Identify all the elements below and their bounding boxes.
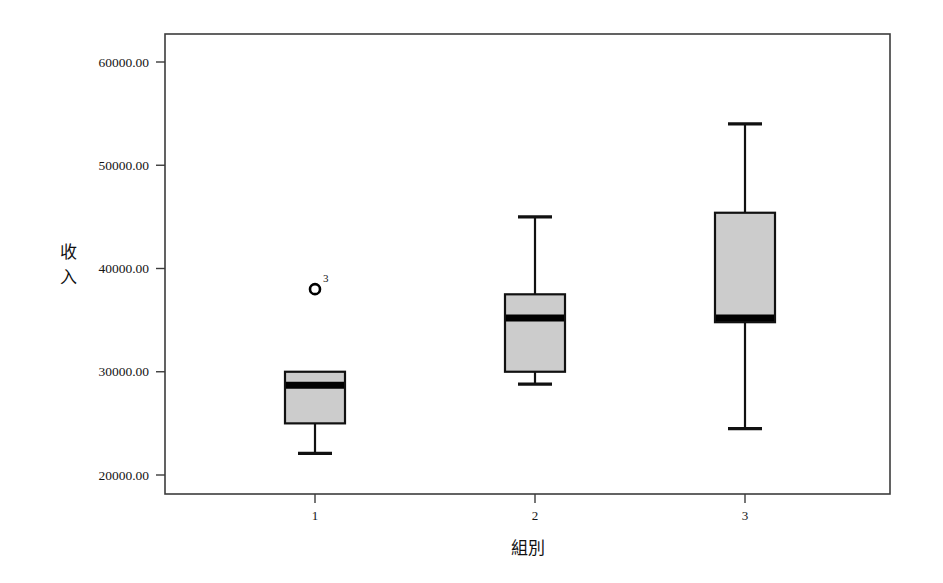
- boxplot-canvas: 20000.0030000.0040000.0050000.0060000.00…: [0, 0, 943, 583]
- box-plot-group: [505, 217, 565, 384]
- box-iqr: [285, 372, 345, 424]
- box-plot-group: [715, 124, 775, 429]
- y-tick-label: 40000.00: [98, 261, 149, 276]
- y-tick-label: 30000.00: [98, 364, 149, 379]
- y-axis-title-char: 收: [60, 243, 77, 262]
- x-tick-label: 1: [312, 508, 319, 523]
- x-tick-label: 2: [532, 508, 539, 523]
- outlier-case-label: 3: [323, 272, 329, 284]
- box-series: 3: [285, 124, 775, 453]
- boxplot-chart: 20000.0030000.0040000.0050000.0060000.00…: [0, 0, 943, 583]
- box-iqr: [715, 213, 775, 322]
- y-tick-label: 20000.00: [98, 468, 149, 483]
- outlier-marker: [310, 284, 320, 294]
- box-plot-group: 3: [285, 272, 345, 453]
- box-iqr: [505, 294, 565, 371]
- x-axis: 123: [312, 494, 749, 523]
- y-axis-title-char: 入: [60, 268, 77, 287]
- y-tick-label: 60000.00: [98, 55, 149, 70]
- x-tick-label: 3: [742, 508, 749, 523]
- x-axis-title: 組別: [511, 539, 545, 558]
- y-tick-label: 50000.00: [98, 158, 149, 173]
- y-axis: 20000.0030000.0040000.0050000.0060000.00: [98, 55, 165, 483]
- plot-border: [165, 34, 890, 494]
- plot-frame: [165, 34, 890, 494]
